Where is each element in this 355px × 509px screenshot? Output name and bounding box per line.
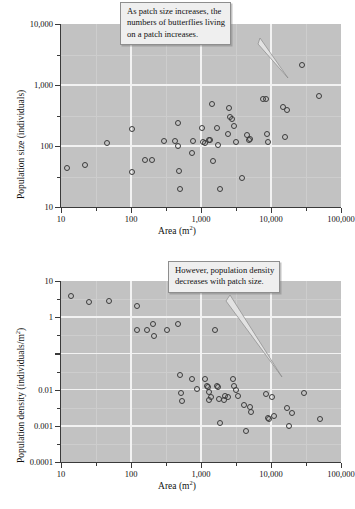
chart-panel-population-size: 101001,00010,000101001,00010,000100,000 … [0,0,354,254]
callout-population-size: As patch size increases, thenumbers of b… [120,2,231,45]
callout-line-1: As patch size increases, the [127,6,225,17]
callout-line-2: numbers of butterflies living [127,17,225,28]
callout-line-3: on a patch increases. [127,29,225,40]
callout-pointer-bottom [0,255,354,509]
chart-panel-population-density: 1010.010.0010.0001101001,00010,000100,00… [0,255,354,509]
callout-population-density: However, population densitydecreases wit… [168,261,280,293]
callout-line-1: However, population density [175,265,274,276]
callout-line-2: decreases with patch size. [175,276,274,287]
